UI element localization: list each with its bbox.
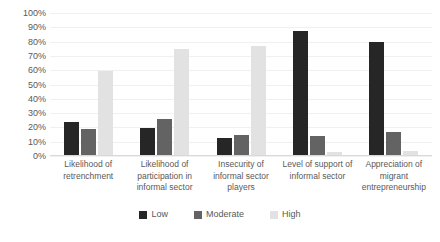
bar-slot xyxy=(369,13,384,155)
legend-label: High xyxy=(282,210,301,219)
legend-item-high[interactable]: High xyxy=(270,210,301,219)
legend-swatch-icon xyxy=(270,211,278,219)
category-label: Appreciation of migrant entrepreneurship xyxy=(356,159,432,194)
bar-slot xyxy=(310,13,325,155)
legend-item-low[interactable]: Low xyxy=(139,210,168,219)
bar-slot xyxy=(174,13,189,155)
x-axis-line xyxy=(50,155,432,156)
category-labels: Likelihood of retrenchmentLikelihood of … xyxy=(50,159,432,194)
bar-low[interactable] xyxy=(64,122,79,155)
bar-slot xyxy=(64,13,79,155)
legend-item-moderate[interactable]: Moderate xyxy=(194,210,244,219)
bar-low[interactable] xyxy=(217,138,232,155)
legend-label: Moderate xyxy=(206,210,244,219)
bar-slot xyxy=(81,13,96,155)
y-axis-tick: 0% xyxy=(8,152,46,161)
bar-moderate[interactable] xyxy=(386,132,401,155)
bar-group xyxy=(50,13,126,155)
bar-moderate[interactable] xyxy=(81,129,96,155)
chart-legend: LowModerateHigh xyxy=(0,210,440,219)
category-label: Likelihood of participation in informal … xyxy=(126,159,202,194)
y-axis-tick: 10% xyxy=(8,137,46,146)
y-axis-tick: 70% xyxy=(8,51,46,60)
bar-high[interactable] xyxy=(174,49,189,155)
bar-group xyxy=(126,13,202,155)
category-label: Insecurity of informal sector players xyxy=(203,159,279,194)
bar-moderate[interactable] xyxy=(310,136,325,155)
bar-chart: 100%90%80%70%60%50%40%30%20%10%0% Likeli… xyxy=(0,0,440,242)
bar-group xyxy=(203,13,279,155)
bar-moderate[interactable] xyxy=(157,119,172,155)
bar-slot xyxy=(98,13,113,155)
bar-group xyxy=(356,13,432,155)
bar-high[interactable] xyxy=(251,46,266,155)
bar-slot xyxy=(234,13,249,155)
y-axis: 100%90%80%70%60%50%40%30%20%10%0% xyxy=(8,13,46,156)
y-axis-tick: 80% xyxy=(8,37,46,46)
category-label: Level of support of informal sector xyxy=(279,159,355,194)
bar-slot xyxy=(293,13,308,155)
bar-slot xyxy=(403,13,418,155)
bar-slot xyxy=(217,13,232,155)
y-axis-tick: 20% xyxy=(8,123,46,132)
legend-swatch-icon xyxy=(194,211,202,219)
y-axis-tick: 30% xyxy=(8,109,46,118)
bar-groups xyxy=(50,13,432,155)
category-label: Likelihood of retrenchment xyxy=(50,159,126,194)
legend-swatch-icon xyxy=(139,211,147,219)
bar-slot xyxy=(157,13,172,155)
bar-slot xyxy=(140,13,155,155)
bar-low[interactable] xyxy=(140,128,155,155)
bar-slot xyxy=(327,13,342,155)
bar-low[interactable] xyxy=(369,42,384,155)
plot-area xyxy=(50,13,432,156)
bar-slot xyxy=(251,13,266,155)
bar-moderate[interactable] xyxy=(234,135,249,155)
legend-label: Low xyxy=(151,210,168,219)
bar-high[interactable] xyxy=(98,71,113,155)
y-axis-tick: 90% xyxy=(8,23,46,32)
y-axis-tick: 40% xyxy=(8,94,46,103)
bar-low[interactable] xyxy=(293,31,308,155)
bar-group xyxy=(279,13,355,155)
gridline xyxy=(50,156,432,157)
y-axis-tick: 60% xyxy=(8,66,46,75)
y-axis-tick: 50% xyxy=(8,80,46,89)
bar-high[interactable] xyxy=(327,152,342,155)
y-axis-tick: 100% xyxy=(8,9,46,18)
bar-slot xyxy=(386,13,401,155)
bar-high[interactable] xyxy=(403,151,418,155)
